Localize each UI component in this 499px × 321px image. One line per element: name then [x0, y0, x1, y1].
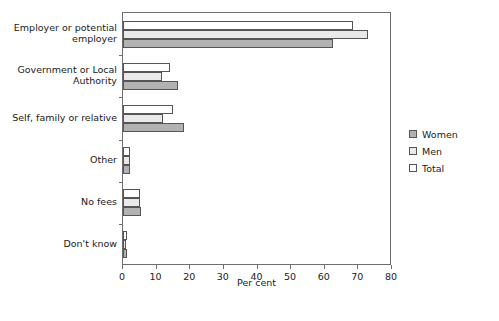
legend-swatch-icon [409, 147, 417, 155]
bar-men [123, 114, 163, 123]
legend-swatch-icon [409, 164, 417, 172]
bar-men [123, 198, 140, 207]
bar-total [123, 231, 127, 240]
x-axis-tick [391, 265, 392, 269]
x-axis-tick [122, 265, 123, 269]
bar-total [123, 147, 130, 156]
x-axis-tick [357, 265, 358, 269]
bar-men [123, 156, 130, 165]
legend-label: Men [422, 146, 442, 157]
x-axis-tick [324, 265, 325, 269]
y-axis-tick [119, 224, 123, 225]
bar-men [123, 240, 126, 249]
x-axis-tick [290, 265, 291, 269]
bar-women [123, 165, 130, 174]
y-axis-tick [119, 97, 123, 98]
bar-men [123, 72, 162, 81]
legend-label: Women [422, 129, 458, 140]
x-axis-tick [257, 265, 258, 269]
bar-women [123, 81, 178, 90]
legend-item-women[interactable]: Women [409, 127, 493, 141]
bar-women [123, 207, 141, 216]
legend-swatch-icon [409, 130, 417, 138]
legend-label: Total [422, 163, 444, 174]
bar-total [123, 189, 140, 198]
bar-men [123, 30, 368, 39]
legend-item-men[interactable]: Men [409, 144, 493, 158]
y-axis-category-label: No fees [5, 196, 117, 208]
y-axis-category-label: Government or Local Authority [5, 64, 117, 87]
y-axis-category-label: Self, family or relative [5, 112, 117, 124]
chart-container: Employer or potential employerGovernment… [0, 0, 499, 321]
x-axis-tick [189, 265, 190, 269]
plot-area [122, 12, 391, 265]
y-axis-tick [119, 182, 123, 183]
bar-women [123, 249, 127, 258]
bar-total [123, 105, 173, 114]
y-axis-tick [119, 140, 123, 141]
y-axis-category-label: Don't know [5, 238, 117, 250]
bar-women [123, 39, 333, 48]
bar-total [123, 21, 353, 30]
y-axis-labels: Employer or potential employerGovernment… [0, 12, 117, 265]
y-axis-category-label: Employer or potential employer [5, 22, 117, 45]
x-axis-tick [156, 265, 157, 269]
x-axis-tick [223, 265, 224, 269]
bar-women [123, 123, 184, 132]
legend-item-total[interactable]: Total [409, 161, 493, 175]
x-axis-title: Per cent [122, 277, 391, 288]
y-axis-category-label: Other [5, 154, 117, 166]
y-axis-tick [119, 55, 123, 56]
legend: WomenMenTotal [409, 127, 493, 178]
bar-total [123, 63, 170, 72]
